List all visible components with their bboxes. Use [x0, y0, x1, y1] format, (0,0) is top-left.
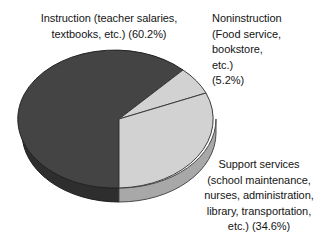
pie-top-face [18, 50, 213, 188]
pie-chart-figure: Instruction (teacher salaries, textbooks… [0, 0, 332, 242]
slice-label-noninstruction: Noninstruction (Food service, bookstore,… [212, 11, 330, 89]
slice-label-instruction: Instruction (teacher salaries, textbooks… [14, 11, 204, 42]
slice-label-support: Support services (school maintenance, nu… [186, 157, 332, 235]
